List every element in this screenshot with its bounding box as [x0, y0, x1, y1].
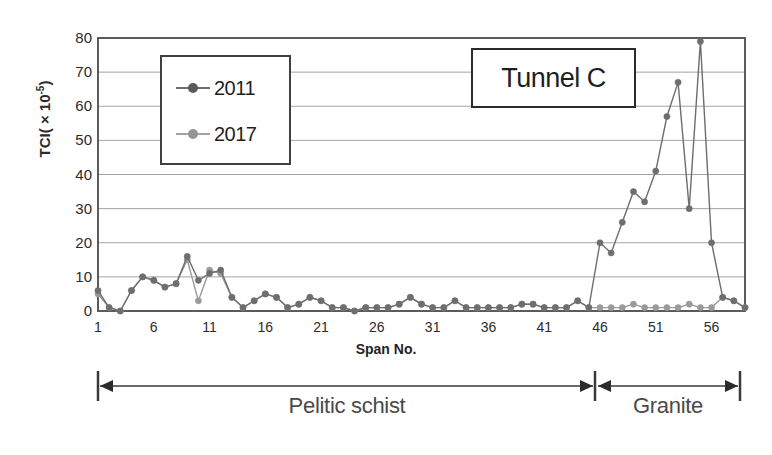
legend-label-2011: 2011	[214, 77, 255, 100]
legend-marker-2011	[176, 82, 210, 94]
geology-annotation: Pelitic schist Granite	[0, 365, 772, 455]
legend-item-2017: 2017	[176, 123, 257, 145]
x-tick-51: 51	[648, 320, 664, 334]
legend-label-2017: 2017	[214, 123, 257, 146]
chart-figure: TCI( × 10-5) 01020304050607080 161116212…	[0, 0, 772, 455]
x-tick-26: 26	[369, 320, 385, 334]
x-tick-56: 56	[704, 320, 720, 334]
x-tick-1: 1	[94, 320, 102, 334]
geology-label-pelitic-schist: Pelitic schist	[289, 393, 406, 419]
x-tick-6: 6	[150, 320, 158, 334]
chart-title-box: Tunnel C	[471, 48, 636, 108]
x-tick-31: 31	[425, 320, 441, 334]
x-tick-36: 36	[481, 320, 497, 334]
x-tick-41: 41	[536, 320, 552, 334]
legend-marker-2017	[176, 128, 210, 140]
x-tick-21: 21	[313, 320, 329, 334]
chart-title: Tunnel C	[501, 63, 606, 94]
legend-item-2011: 2011	[176, 77, 255, 99]
x-axis-label: Span No.	[0, 341, 772, 357]
geology-label-granite: Granite	[633, 393, 703, 419]
x-tick-46: 46	[592, 320, 608, 334]
x-tick-16: 16	[258, 320, 274, 334]
x-tick-11: 11	[202, 320, 217, 334]
legend: 2011 2017	[160, 55, 291, 165]
